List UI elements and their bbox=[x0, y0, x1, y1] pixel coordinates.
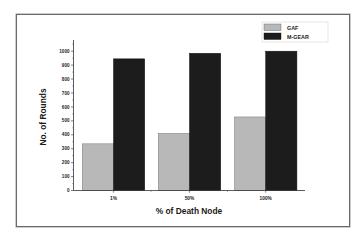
x-tick-label: 1% bbox=[110, 196, 118, 201]
y-tick-label: 900 bbox=[62, 63, 70, 68]
y-tick-label: 1000 bbox=[59, 49, 70, 54]
legend: GAF M-GEAR bbox=[262, 22, 328, 42]
y-axis-title: No. of Rounds bbox=[38, 88, 48, 146]
y-tick-label: 500 bbox=[62, 118, 70, 123]
x-axis-title: % of Death Node bbox=[156, 206, 223, 216]
bar-chart: 01002003004005006007008009001000 1%50%10… bbox=[0, 0, 361, 237]
bar-m-gear-1pct bbox=[114, 59, 145, 191]
y-tick-label: 0 bbox=[67, 188, 70, 193]
y-tick-label: 700 bbox=[62, 91, 70, 96]
bar-gaf-1pct bbox=[82, 144, 113, 191]
bars-group bbox=[82, 51, 297, 190]
bar-m-gear-100pct bbox=[266, 51, 297, 190]
y-tick-label: 200 bbox=[62, 160, 70, 165]
y-tick-label: 800 bbox=[62, 77, 70, 82]
legend-label-gaf: GAF bbox=[287, 25, 299, 31]
y-tick-label: 600 bbox=[62, 105, 70, 110]
bar-gaf-100pct bbox=[235, 117, 266, 191]
x-tick-label: 100% bbox=[260, 196, 273, 201]
legend-label-m-gear: M-GEAR bbox=[287, 34, 309, 40]
x-ticks-group: 1%50%100% bbox=[110, 191, 273, 201]
bar-m-gear-50pct bbox=[190, 53, 221, 190]
y-ticks-group: 01002003004005006007008009001000 bbox=[59, 44, 73, 193]
legend-swatch-m-gear bbox=[264, 33, 281, 40]
legend-swatch-gaf bbox=[264, 24, 281, 31]
y-tick-label: 400 bbox=[62, 132, 70, 137]
y-tick-label: 300 bbox=[62, 146, 70, 151]
bar-gaf-50pct bbox=[158, 133, 189, 190]
y-tick-label: 100 bbox=[62, 174, 70, 179]
x-tick-label: 50% bbox=[185, 196, 195, 201]
